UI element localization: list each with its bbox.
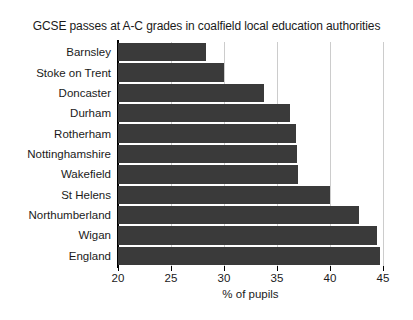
bar [118,104,290,122]
category-label: Northumberland [29,209,111,221]
bar-row: Wakefield [118,164,383,184]
bar [118,145,297,163]
bar-row: Nottinghamshire [118,144,383,164]
category-label: England [69,250,111,262]
chart-figure: GCSE passes at A-C grades in coalfield l… [0,0,413,320]
x-tick-label-25: 25 [165,272,178,284]
x-tick-mark-40 [330,266,331,271]
x-tick-label-40: 40 [324,272,337,284]
bar [118,247,380,265]
x-tick-mark-45 [383,266,384,271]
x-tick-label-35: 35 [271,272,284,284]
bar [118,226,377,244]
bar-row: Barnsley [118,42,383,62]
bar [118,84,264,102]
category-label: St Helens [61,189,111,201]
chart-title: GCSE passes at A-C grades in coalfield l… [0,19,413,33]
x-tick-mark-20 [118,266,119,271]
bar-row: Doncaster [118,83,383,103]
bar [118,206,359,224]
x-tick-mark-30 [224,266,225,271]
bar [118,63,224,81]
category-label: Durham [70,107,111,119]
bar [118,43,206,61]
category-label: Rotherham [54,128,111,140]
bar-row: Rotherham [118,123,383,143]
category-label: Doncaster [59,87,111,99]
x-tick-mark-25 [171,266,172,271]
x-tick-label-30: 30 [218,272,231,284]
bar [118,165,298,183]
bar-row: Wigan [118,225,383,245]
category-label: Wigan [78,229,111,241]
x-tick-mark-35 [277,266,278,271]
x-axis-label: % of pupils [118,288,383,300]
bar-row: Stoke on Trent [118,62,383,82]
bar-row: Northumberland [118,205,383,225]
category-label: Wakefield [61,168,111,180]
bar-row: Durham [118,103,383,123]
category-label: Barnsley [66,46,111,58]
bar-row: St Helens [118,185,383,205]
x-tick-label-45: 45 [377,272,390,284]
category-label: Stoke on Trent [36,67,111,79]
bar-row: England [118,246,383,266]
bar [118,186,330,204]
x-axis-ticks: 202530354045 [118,266,383,306]
x-tick-label-20: 20 [112,272,125,284]
category-label: Nottinghamshire [27,148,111,160]
plot-area: BarnsleyStoke on TrentDoncasterDurhamRot… [118,42,383,266]
bar [118,124,296,142]
bar-series: BarnsleyStoke on TrentDoncasterDurhamRot… [118,42,383,266]
gridline-45 [383,42,384,266]
